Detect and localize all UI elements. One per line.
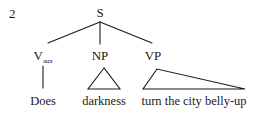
branch-s-to-vaux xyxy=(48,22,100,43)
node-label-vp: VP xyxy=(145,49,162,62)
node-label-np: NP xyxy=(92,49,109,62)
syntax-tree-figure: 2 S Vaux NP VP Does darkness turn the ci… xyxy=(0,0,262,114)
np-triangle xyxy=(88,68,120,89)
terminal-does: Does xyxy=(30,95,56,108)
node-label-s: S xyxy=(96,6,103,19)
terminal-darkness: darkness xyxy=(82,95,126,108)
item-number: 2 xyxy=(9,7,16,20)
node-label-vaux-main: V xyxy=(34,48,43,63)
node-label-vaux-subscript: aux xyxy=(43,57,53,65)
terminal-vp-phrase: turn the city belly-up xyxy=(141,95,246,108)
node-label-vaux: Vaux xyxy=(34,49,53,62)
vp-triangle xyxy=(143,69,245,89)
branch-s-to-vp xyxy=(100,22,152,43)
